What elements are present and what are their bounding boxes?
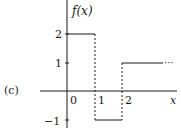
x-tick-label-0: 0 bbox=[70, 94, 77, 107]
continuation-dots: ··· bbox=[164, 57, 174, 68]
step-function-plot: f(x) 2 1 −1 0 1 2 x (c) ··· bbox=[0, 0, 181, 133]
y-tick-label-1: 1 bbox=[55, 57, 62, 70]
y-tick-label-neg1: −1 bbox=[44, 115, 60, 128]
y-tick-label-2: 2 bbox=[55, 28, 62, 41]
panel-label: (c) bbox=[4, 84, 19, 97]
x-tick-label-2: 2 bbox=[125, 94, 132, 107]
x-axis-label: x bbox=[170, 94, 177, 107]
y-axis-label: f(x) bbox=[71, 4, 93, 18]
x-tick-label-1: 1 bbox=[98, 94, 105, 107]
